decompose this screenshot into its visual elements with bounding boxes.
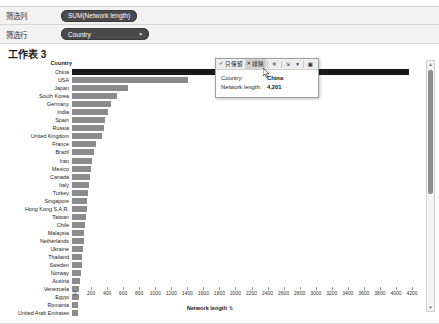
bar[interactable] — [72, 222, 85, 228]
tooltip-row: Network length: 4,201 — [221, 83, 313, 92]
keep-only-button[interactable]: ✓ 只保留 — [217, 59, 245, 69]
bar-cell — [72, 253, 420, 261]
bar-row-label: USA — [0, 76, 72, 84]
toolbar-divider — [267, 61, 268, 68]
bar-row[interactable]: Italy — [0, 181, 420, 189]
bar-row[interactable]: Japan — [0, 84, 420, 92]
group-icon[interactable]: ⁜ — [269, 59, 280, 69]
bar[interactable] — [72, 246, 83, 252]
chevron-down-icon[interactable]: ▾ — [139, 31, 142, 37]
axis-tick-label: 2800 — [294, 290, 305, 296]
scroll-up-icon[interactable]: ▲ — [427, 61, 434, 68]
exclude-label: 排除 — [252, 60, 264, 68]
bar-row[interactable]: South Korea — [0, 92, 420, 100]
bar-row[interactable]: Canada — [0, 173, 420, 181]
sort-icon[interactable]: ⇅ — [229, 305, 233, 311]
bar-row[interactable]: Germany — [0, 100, 420, 108]
bar-row[interactable]: Austria — [0, 277, 420, 285]
bar[interactable] — [72, 174, 90, 180]
bar-row-label: Spain — [0, 116, 72, 124]
check-icon: ✓ — [219, 61, 224, 66]
bar-row[interactable]: Spain — [0, 116, 420, 124]
mouse-cursor-icon — [263, 68, 270, 78]
bar-row-label: Sweden — [0, 261, 72, 269]
bar[interactable] — [72, 93, 117, 99]
bar-row[interactable]: Russia — [0, 124, 420, 132]
bar-cell — [72, 100, 420, 108]
bar-row[interactable]: Hong Kong S.A.R. — [0, 205, 420, 213]
bar-row[interactable]: Turkey — [0, 189, 420, 197]
tooltip-popup[interactable]: ✓ 只保留 ✕ 排除 ⁜ ⇲ ▾ ▣ Country: China Networ… — [215, 58, 319, 98]
bar-row[interactable]: Thailand — [0, 253, 420, 261]
bar-row[interactable]: United Kingdom — [0, 132, 420, 140]
bar[interactable] — [72, 117, 105, 123]
bar-row[interactable]: Mexico — [0, 165, 420, 173]
chevron-down-icon[interactable]: ▾ — [293, 59, 302, 69]
rows-shelf[interactable]: 筛选行 Country ▾ — [0, 25, 439, 44]
bar-row[interactable]: Singapore — [0, 197, 420, 205]
bar-cell — [72, 229, 420, 237]
axis-tick-label: 2200 — [246, 290, 257, 296]
bar-row[interactable]: Norway — [0, 269, 420, 277]
bar[interactable] — [72, 278, 80, 284]
page-title: 工作表 3 — [8, 46, 46, 61]
bar-row-label: Norway — [0, 269, 72, 277]
bar[interactable] — [72, 238, 84, 244]
bar-rows: ChinaUSAJapanSouth KoreaGermanyIndiaSpai… — [0, 68, 420, 317]
toolbar-divider-3 — [303, 61, 304, 68]
bar-row-label: Austria — [0, 277, 72, 285]
pill-sum-network-length[interactable]: SUM(Network length) — [61, 10, 137, 22]
bar[interactable] — [72, 85, 128, 91]
axis-tick-label: 3400 — [342, 290, 353, 296]
bar-row[interactable]: India — [0, 108, 420, 116]
bar-row[interactable]: Ukraine — [0, 245, 420, 253]
bar-row[interactable]: USA — [0, 76, 420, 84]
bar[interactable] — [72, 77, 188, 83]
bar[interactable] — [72, 190, 88, 196]
bar-row[interactable]: Malaysia — [0, 229, 420, 237]
bar[interactable] — [72, 182, 89, 188]
bar-row[interactable]: Iran — [0, 157, 420, 165]
bar-row[interactable]: China — [0, 68, 420, 76]
bar-row[interactable]: Brazil — [0, 148, 420, 156]
vertical-scrollbar[interactable]: ▲ ▼ — [426, 60, 435, 312]
bar[interactable] — [72, 230, 84, 236]
bar-cell — [72, 261, 420, 269]
bar[interactable] — [72, 101, 111, 107]
bar[interactable] — [72, 149, 94, 155]
tooltip-key: Network length: — [221, 83, 267, 92]
bar-row-label: Turkey — [0, 189, 72, 197]
pill-country[interactable]: Country ▾ — [61, 28, 149, 40]
bar[interactable] — [72, 125, 104, 131]
bar[interactable] — [72, 206, 87, 212]
bar[interactable] — [72, 166, 91, 172]
bar-row[interactable]: Netherlands — [0, 237, 420, 245]
x-axis-title-text: Network length — [187, 305, 227, 311]
bar-row-label: Singapore — [0, 197, 72, 205]
bar-row[interactable]: Taiwan — [0, 213, 420, 221]
create-set-icon[interactable]: ⇲ — [283, 59, 294, 69]
axis-tick-label: 4200 — [406, 290, 417, 296]
chart-area: Country ChinaUSAJapanSouth KoreaGermanyI… — [0, 60, 420, 312]
bar-row[interactable]: Chile — [0, 221, 420, 229]
bar[interactable] — [72, 141, 96, 147]
view-data-icon[interactable]: ▣ — [305, 59, 316, 69]
bar[interactable] — [72, 270, 81, 276]
rows-shelf-label: 筛选行 — [0, 29, 61, 40]
bar-cell — [72, 157, 420, 165]
bar[interactable] — [72, 214, 86, 220]
bar[interactable] — [72, 262, 82, 268]
bar[interactable] — [72, 310, 78, 316]
bar-row[interactable]: France — [0, 140, 420, 148]
bar[interactable] — [72, 198, 87, 204]
scrollbar-thumb[interactable] — [428, 70, 433, 194]
axis-tick-label: 1400 — [182, 290, 193, 296]
scroll-down-icon[interactable]: ▼ — [427, 304, 434, 311]
bar[interactable] — [72, 133, 102, 139]
bar-row-label: Ukraine — [0, 245, 72, 253]
bar-row[interactable]: Sweden — [0, 261, 420, 269]
bar[interactable] — [72, 158, 92, 164]
bar[interactable] — [72, 254, 82, 260]
bar[interactable] — [72, 109, 108, 115]
columns-shelf[interactable]: 筛选列 SUM(Network length) — [0, 6, 439, 25]
